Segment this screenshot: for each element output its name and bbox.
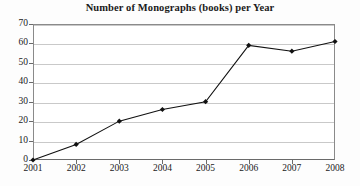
y-axis-tick-mark: [29, 43, 33, 44]
y-axis-tick-mark: [29, 160, 33, 161]
gridline-y-10: [34, 142, 334, 143]
y-axis-tick-mark: [29, 121, 33, 122]
x-axis-tick-mark: [206, 160, 207, 164]
x-axis-tick-mark: [292, 160, 293, 164]
y-axis-tick-label: 40: [4, 77, 28, 87]
y-axis-tick-label: 70: [4, 19, 28, 29]
gridline-y-20: [34, 122, 334, 123]
x-axis-tick-label: 2004: [142, 164, 182, 174]
gridline-y-30: [34, 103, 334, 104]
x-axis-tick-label: 2006: [229, 164, 269, 174]
x-axis-tick-mark: [249, 160, 250, 164]
x-axis-tick-label: 2003: [99, 164, 139, 174]
y-axis-tick-label: 60: [4, 38, 28, 48]
gridline-y-50: [34, 64, 334, 65]
y-axis-tick-mark: [29, 24, 33, 25]
y-axis-tick-label: 50: [4, 58, 28, 68]
x-axis-tick-label: 2002: [56, 164, 96, 174]
y-axis-tick-label: 20: [4, 116, 28, 126]
gridline-y-70: [34, 25, 334, 26]
y-axis-tick-label: 10: [4, 136, 28, 146]
plot-area: [33, 24, 335, 160]
y-axis-tick-mark: [29, 63, 33, 64]
x-axis-tick-mark: [162, 160, 163, 164]
gridline-y-40: [34, 83, 334, 84]
x-axis-tick-label: 2008: [315, 164, 355, 174]
x-axis-tick-label: 2001: [13, 164, 53, 174]
y-axis-tick-mark: [29, 82, 33, 83]
x-axis-tick-label: 2005: [186, 164, 226, 174]
gridline-y-60: [34, 44, 334, 45]
y-axis-tick-mark: [29, 141, 33, 142]
x-axis-tick-mark: [76, 160, 77, 164]
x-axis-tick-mark: [119, 160, 120, 164]
chart-container: Number of Monographs (books) per Year 01…: [0, 0, 360, 186]
y-axis-tick-mark: [29, 102, 33, 103]
chart-title: Number of Monographs (books) per Year: [0, 2, 360, 13]
x-axis-tick-label: 2007: [272, 164, 312, 174]
y-axis-tick-label: 30: [4, 97, 28, 107]
